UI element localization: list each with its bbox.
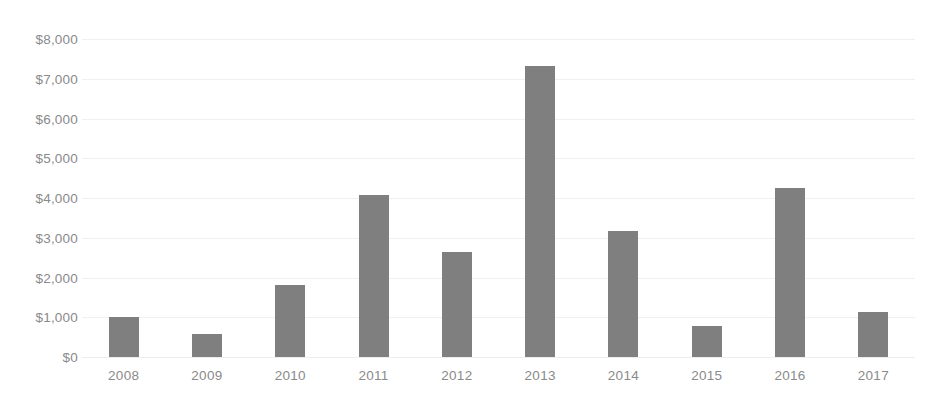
gridline xyxy=(82,119,915,120)
bar xyxy=(109,317,139,357)
gridline xyxy=(82,79,915,80)
x-axis-tick-label: 2010 xyxy=(250,368,330,383)
bar xyxy=(858,312,888,357)
y-axis-tick-label: $0 xyxy=(4,350,78,365)
x-axis-tick-label: 2012 xyxy=(417,368,497,383)
y-axis-tick-label: $2,000 xyxy=(4,270,78,285)
x-axis-tick-label: 2008 xyxy=(84,368,164,383)
plot-area xyxy=(82,30,915,370)
bar xyxy=(442,252,472,357)
y-axis-tick-label: $1,000 xyxy=(4,310,78,325)
x-axis-tick-label: 2011 xyxy=(334,368,414,383)
gridline xyxy=(82,158,915,159)
bar xyxy=(359,195,389,357)
y-axis-tick-label: $3,000 xyxy=(4,230,78,245)
y-axis-tick-label: $4,000 xyxy=(4,191,78,206)
bar xyxy=(192,334,222,357)
x-axis-tick-label: 2013 xyxy=(500,368,580,383)
bar xyxy=(692,326,722,357)
y-axis-tick-label: $8,000 xyxy=(4,32,78,47)
y-axis: $0$1,000$2,000$3,000$4,000$5,000$6,000$7… xyxy=(0,30,78,370)
x-axis-tick-label: 2014 xyxy=(583,368,663,383)
y-axis-tick-label: $7,000 xyxy=(4,71,78,86)
x-axis-tick-label: 2009 xyxy=(167,368,247,383)
y-axis-tick-label: $6,000 xyxy=(4,111,78,126)
x-axis-tick-label: 2015 xyxy=(667,368,747,383)
gridline xyxy=(82,357,915,358)
bar xyxy=(775,188,805,357)
bar xyxy=(525,66,555,357)
x-axis-tick-label: 2017 xyxy=(833,368,913,383)
x-axis-tick-label: 2016 xyxy=(750,368,830,383)
gridline xyxy=(82,39,915,40)
y-axis-tick-label: $5,000 xyxy=(4,151,78,166)
x-axis: 2008200920102011201220132014201520162017 xyxy=(82,368,915,400)
bar xyxy=(608,231,638,357)
bar xyxy=(275,285,305,357)
bar-chart: $0$1,000$2,000$3,000$4,000$5,000$6,000$7… xyxy=(0,0,928,411)
